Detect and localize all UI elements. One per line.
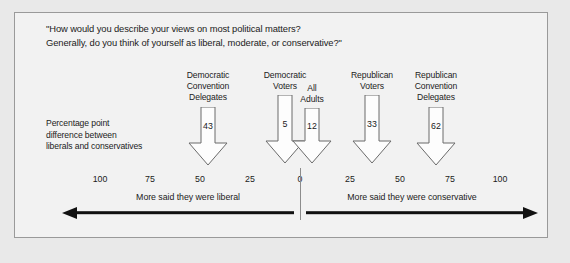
group-label-line-1: Republican bbox=[388, 70, 484, 81]
arrow-value-label: 62 bbox=[416, 121, 456, 131]
arrow-republican-convention-delegates: 62 bbox=[416, 107, 456, 167]
arrow-value-label: 12 bbox=[292, 121, 332, 131]
down-arrow-icon bbox=[292, 108, 332, 165]
group-label-line-1: Democratic bbox=[252, 70, 318, 81]
question-line-2: Generally, do you think of yourself as l… bbox=[46, 36, 476, 50]
scale-tick: 100 bbox=[493, 174, 508, 184]
arrow-republican-voters: 33 bbox=[352, 95, 392, 165]
axis-label-liberal: More said they were liberal bbox=[136, 192, 240, 202]
group-label-line-1: Democratic bbox=[160, 70, 256, 81]
group-label-line-2: Adults bbox=[290, 94, 334, 105]
scale-tick: 100 bbox=[93, 174, 108, 184]
group-all-adults: All Adults 12 bbox=[290, 83, 334, 165]
axis-direction-band: More said they were liberal More said th… bbox=[0, 192, 570, 232]
group-label-line-3: Delegates bbox=[160, 92, 256, 103]
question-line-1: "How would you describe your views on mo… bbox=[46, 22, 476, 36]
arrow-all-adults: 12 bbox=[292, 108, 332, 165]
center-divider bbox=[300, 168, 301, 220]
down-arrow-icon bbox=[416, 107, 456, 167]
scale-tick: 50 bbox=[395, 174, 405, 184]
group-label-line-1: All bbox=[290, 83, 334, 94]
down-arrow-icon bbox=[188, 107, 228, 167]
scale-tick: 75 bbox=[145, 174, 155, 184]
arrow-value-label: 33 bbox=[352, 119, 392, 129]
group-label-line-2: Convention bbox=[388, 81, 484, 92]
group-label-line-3: Delegates bbox=[388, 92, 484, 103]
arrow-value-label: 43 bbox=[188, 121, 228, 131]
arrow-democratic-convention-delegates: 43 bbox=[188, 107, 228, 167]
group-democratic-convention-delegates: Democratic Convention Delegates 43 bbox=[160, 70, 256, 167]
left-arrow-icon bbox=[62, 206, 294, 220]
axis-label-conservative: More said they were conservative bbox=[347, 192, 476, 202]
scale-tick: 50 bbox=[195, 174, 205, 184]
down-arrow-icon bbox=[352, 95, 392, 165]
scale-tick: 25 bbox=[245, 174, 255, 184]
question-text: "How would you describe your views on mo… bbox=[46, 22, 476, 49]
scale-tick: 25 bbox=[345, 174, 355, 184]
chart-root: "How would you describe your views on mo… bbox=[0, 0, 570, 263]
right-arrow-icon bbox=[306, 206, 538, 220]
group-label-line-2: Convention bbox=[160, 81, 256, 92]
group-republican-convention-delegates: Republican Convention Delegates 62 bbox=[388, 70, 484, 167]
axis-scale: 100 75 50 25 0 25 50 75 100 bbox=[0, 174, 570, 188]
scale-tick: 75 bbox=[445, 174, 455, 184]
